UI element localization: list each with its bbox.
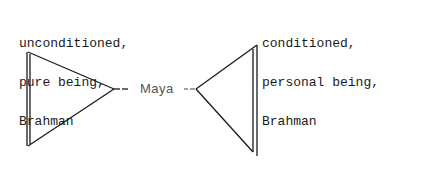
right-top-line-1: conditioned, [262,37,379,50]
right-top-label: conditioned, personal being, Brahman [262,11,379,141]
left-top-line-2: pure being, [19,76,128,89]
left-bottom-label: Atman, absolute, real self [19,150,144,176]
right-top-line-3: Brahman [262,115,379,128]
left-top-label: unconditioned, pure being, Brahman [19,11,128,141]
right-triangle [196,45,257,156]
left-top-line-1: unconditioned, [19,37,128,50]
right-top-line-2: personal being, [262,76,379,89]
left-top-line-3: Brahman [19,115,128,128]
maya-label: Maya [140,81,174,96]
right-bottom-label: Jiva, individual, apparent self [262,150,395,176]
